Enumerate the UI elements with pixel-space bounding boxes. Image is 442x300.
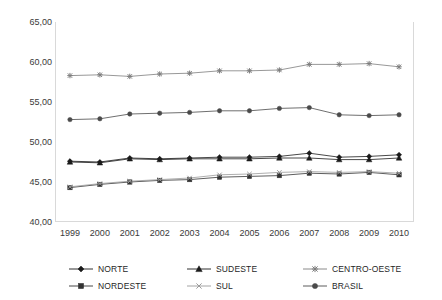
data-point-marker-circle [367,113,371,117]
legend-label: NORTE [98,264,128,274]
legend-item-norte[interactable]: NORTE [68,264,186,274]
data-point-marker-circle [187,110,191,114]
y-axis-tick-label: 50,00 [4,137,52,147]
data-point-marker-circle [307,105,311,109]
data-point-marker-asterisk [247,68,252,73]
data-point-marker-circle [397,113,401,117]
y-axis-tick-label: 60,00 [4,57,52,67]
data-point-marker-square [367,170,371,174]
y-axis: 65,0060,0055,0050,0045,0040,00 [0,0,52,300]
y-axis-tick-label: 45,00 [4,177,52,187]
cropped-title-text [150,0,400,4]
line-chart: 65,0060,0055,0050,0045,0040,00 199920002… [0,0,442,300]
data-point-marker-asterisk [396,64,401,69]
data-point-marker-circle [337,113,341,117]
data-point-marker-circle [68,117,72,121]
series-brasil [68,105,401,121]
legend-label: NORDESTE [98,281,146,291]
legend-item-sul[interactable]: SUL [186,281,302,291]
y-axis-tick-label: 55,00 [4,97,52,107]
plot-series-layer [55,22,414,222]
data-point-marker-asterisk [277,67,282,72]
data-point-marker-asterisk [217,68,222,73]
data-point-marker-circle [217,109,221,113]
series-norte [67,151,401,165]
legend-item-sudeste[interactable]: SUDESTE [186,264,302,274]
data-point-marker-asterisk [312,265,318,271]
y-axis-tick-label: 65,00 [4,17,52,27]
data-point-marker-square [68,185,72,189]
x-axis: 1999200020012002200320042005200620072008… [55,228,414,242]
y-axis-tick-label: 40,00 [4,217,52,227]
data-point-marker-circle [277,106,281,110]
data-point-marker-square [158,178,162,182]
legend-marker-asterisk-icon [302,264,328,274]
series-sul [68,169,401,189]
legend-item-nordeste[interactable]: NORDESTE [68,281,186,291]
legend-label: CENTRO-OESTE [332,264,401,274]
legend-label: SUL [216,281,233,291]
legend-item-centro-oeste[interactable]: CENTRO-OESTE [302,264,408,274]
data-point-marker-asterisk [67,73,72,78]
data-point-marker-square [98,182,102,186]
data-point-marker-asterisk [307,62,312,67]
chart-legend: NORTESUDESTECENTRO-OESTENORDESTESULBRASI… [68,260,408,294]
data-point-marker-asterisk [127,74,132,79]
data-point-marker-triangle [396,155,402,160]
legend-marker-square-icon [68,281,94,291]
x-axis-tick-label: 2010 [379,228,419,239]
data-point-marker-square [128,180,132,184]
data-point-marker-circle [247,109,251,113]
data-point-marker-asterisk [337,62,342,67]
legend-marker-triangle-icon [186,264,212,274]
data-point-marker-diamond [78,266,84,272]
legend-marker-diamond-icon [68,264,94,274]
data-point-marker-square [78,283,83,288]
series-nordeste [68,170,401,190]
legend-label: BRASIL [332,281,363,291]
data-point-marker-asterisk [366,61,371,66]
data-point-marker-asterisk [187,71,192,76]
data-point-marker-asterisk [97,72,102,77]
legend-marker-circle-icon [302,281,328,291]
data-point-marker-circle [158,111,162,115]
data-point-marker-circle [128,112,132,116]
data-point-marker-circle [312,283,317,288]
legend-label: SUDESTE [216,264,257,274]
series-centro-oeste [67,61,401,79]
legend-marker-cross-icon [186,281,212,291]
data-point-marker-circle [98,117,102,121]
data-point-marker-asterisk [157,71,162,76]
legend-item-brasil[interactable]: BRASIL [302,281,408,291]
